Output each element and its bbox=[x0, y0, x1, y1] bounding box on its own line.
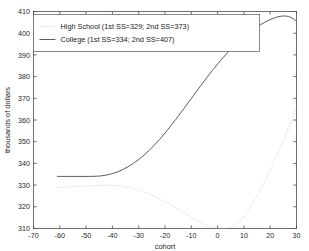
line-chart: -70-60-50-40-30-20-100102030310320330340… bbox=[0, 0, 309, 251]
legend-box bbox=[34, 15, 260, 52]
y-tick-label: 410 bbox=[18, 7, 30, 16]
x-tick-label: -30 bbox=[134, 231, 144, 240]
legend-label-2: College (1st SS=334; 2nd SS=407) bbox=[61, 35, 175, 44]
series-line-1 bbox=[57, 108, 296, 229]
x-tick-label: -40 bbox=[107, 231, 117, 240]
legend-label-1: High School (1st SS=329; 2nd SS=373) bbox=[61, 22, 190, 31]
x-tick-label: 20 bbox=[266, 231, 274, 240]
y-axis-label: thousands of dollars bbox=[3, 87, 12, 153]
x-tick-label: -10 bbox=[186, 231, 196, 240]
y-tick-label: 350 bbox=[18, 137, 30, 146]
y-tick-label: 370 bbox=[18, 94, 30, 103]
y-tick-label: 390 bbox=[18, 51, 30, 60]
y-tick-label: 340 bbox=[18, 159, 30, 168]
chart-legend: High School (1st SS=329; 2nd SS=373)Coll… bbox=[34, 15, 260, 52]
x-axis-label: cohort bbox=[155, 242, 176, 251]
x-tick-label: 10 bbox=[240, 231, 248, 240]
x-tick-label: 30 bbox=[293, 231, 301, 240]
y-tick-label: 330 bbox=[18, 181, 30, 190]
y-tick-label: 320 bbox=[18, 202, 30, 211]
x-tick-label: -60 bbox=[55, 231, 65, 240]
y-tick-label: 380 bbox=[18, 72, 30, 81]
y-tick-label: 400 bbox=[18, 29, 30, 38]
x-tick-label: 0 bbox=[216, 231, 220, 240]
x-tick-label: -50 bbox=[81, 231, 91, 240]
x-tick-label: -20 bbox=[160, 231, 170, 240]
y-tick-label: 360 bbox=[18, 116, 30, 125]
chart-figure: -70-60-50-40-30-20-100102030310320330340… bbox=[0, 0, 309, 251]
y-tick-label: 310 bbox=[18, 224, 30, 233]
